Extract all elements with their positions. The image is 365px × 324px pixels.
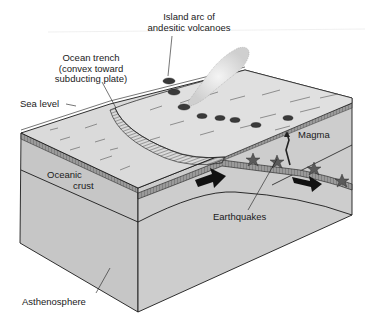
volcano-icon — [251, 123, 261, 128]
volcano-icon — [163, 78, 175, 84]
volcano-icon — [197, 114, 207, 119]
label-asthenosphere: Asthenosphere — [22, 297, 86, 308]
label-island-arc-line2: andesitic volcanoes — [145, 23, 233, 34]
label-oceanic-crust-line2: crust — [47, 181, 94, 192]
label-ocean-trench: Ocean trench (convex toward subducting p… — [50, 53, 132, 85]
subduction-block-diagram — [0, 0, 365, 324]
label-oceanic-crust-line1: Oceanic — [47, 170, 94, 181]
volcano-icon — [283, 116, 293, 121]
label-sea-level: Sea level — [20, 99, 59, 110]
label-ocean-trench-line3: subducting plate) — [50, 74, 132, 85]
volcano-icon — [168, 89, 180, 95]
label-magma: Magma — [298, 130, 330, 141]
label-oceanic-crust: Oceanic crust — [47, 170, 94, 191]
volcano-icon — [178, 104, 190, 110]
volcano-icon — [230, 118, 240, 123]
label-island-arc-line1: Island arc of — [145, 12, 233, 23]
volcano-icon — [215, 116, 225, 121]
label-ocean-trench-line1: Ocean trench — [50, 53, 132, 64]
label-island-arc: Island arc of andesitic volcanoes — [145, 12, 233, 33]
label-earthquakes: Earthquakes — [213, 212, 266, 223]
